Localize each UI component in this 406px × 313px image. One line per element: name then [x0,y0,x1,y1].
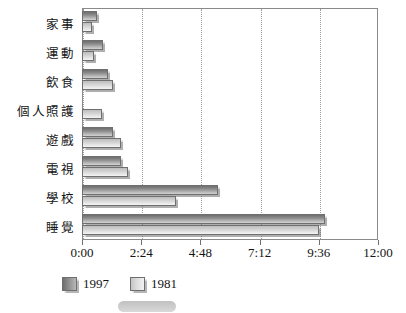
chart-row: 飲食 [82,66,378,95]
caption-tag-icon [118,301,176,312]
bar-1981-睡覺 [82,225,319,235]
bar-chart: 家事運動飲食個人照護遊戲電視學校睡覺 0:002:244:487:129:361… [0,0,406,262]
caption-strip [0,300,406,313]
legend-item-1981[interactable]: 1981 [130,276,177,292]
bar-1981-遊戲 [82,138,121,148]
legend-label: 1981 [151,276,177,292]
chart-row: 運動 [82,37,378,66]
x-tick-label: 9:36 [307,245,330,261]
category-label: 睡覺 [46,216,75,235]
legend-label: 1997 [83,276,109,292]
bar-1997-家事 [82,11,97,21]
bar-1981-家事 [82,22,92,32]
category-label: 個人照護 [17,100,75,119]
chart-row: 遊戲 [82,124,378,153]
bar-1981-運動 [82,51,94,61]
category-label: 學校 [46,187,75,206]
bar-1997-運動 [82,40,103,50]
bar-1997-電視 [82,156,121,166]
bar-1981-個人照護 [82,109,102,119]
legend-swatch-icon [130,277,145,291]
chart-row: 個人照護 [82,95,378,124]
category-label: 電視 [46,158,75,177]
x-tick-label: 12:00 [363,245,393,261]
chart-legend: 19971981 [62,276,189,292]
bar-1997-遊戲 [82,127,113,137]
chart-row: 電視 [82,153,378,182]
legend-swatch-icon [62,277,77,291]
bar-1997-飲食 [82,69,108,79]
category-label: 家事 [46,13,75,32]
x-tick-label: 4:48 [189,245,212,261]
x-tick-label: 0:00 [70,245,93,261]
legend-item-1997[interactable]: 1997 [62,276,109,292]
bar-1981-學校 [82,196,176,206]
chart-row: 家事 [82,8,378,37]
chart-row: 睡覺 [82,211,378,240]
chart-rows: 家事運動飲食個人照護遊戲電視學校睡覺 [82,8,378,240]
bar-1981-電視 [82,167,128,177]
x-tick-label: 2:24 [130,245,153,261]
bar-1997-睡覺 [82,214,325,224]
bar-1997-學校 [82,185,218,195]
category-label: 遊戲 [46,129,75,148]
x-tick-label: 7:12 [248,245,271,261]
category-label: 運動 [46,42,75,61]
chart-row: 學校 [82,182,378,211]
bar-1981-飲食 [82,80,113,90]
category-label: 飲食 [46,71,75,90]
